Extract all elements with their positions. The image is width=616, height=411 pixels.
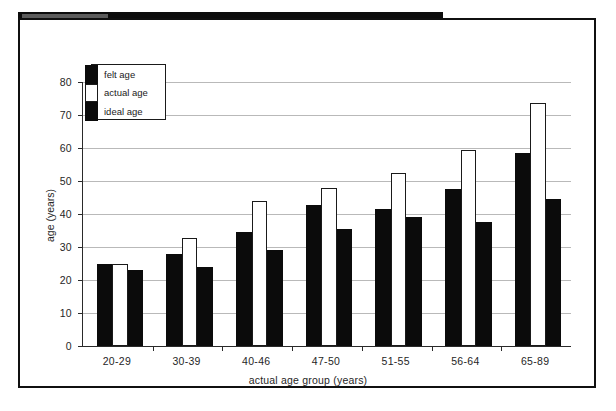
figure-page: FIGURE 1.1 Australian adults' felt and i…: [0, 0, 616, 411]
bar-ideal-age-40-46: [267, 250, 283, 346]
bar-ideal-age-51-55: [406, 217, 422, 346]
bar-actual-age-20-29: [112, 264, 128, 347]
bar-felt-age-20-29: [97, 264, 113, 347]
bar-ideal-age-30-39: [197, 267, 213, 346]
y-tick-label: 60: [38, 142, 72, 154]
legend-label: actual age: [104, 87, 148, 98]
bar-ideal-age-56-64: [476, 222, 492, 346]
x-tick-label: 30-39: [152, 355, 222, 367]
y-tick: [78, 214, 83, 215]
y-tick: [78, 148, 83, 149]
legend-label: ideal age: [104, 106, 143, 117]
bar-actual-age-30-39: [182, 238, 198, 346]
y-tick: [78, 181, 83, 182]
y-tick: [78, 346, 83, 347]
legend-swatch-icon: [85, 65, 98, 84]
bar-actual-age-40-46: [252, 201, 268, 346]
x-tick-label: 20-29: [82, 355, 152, 367]
bar-actual-age-47-50: [321, 188, 337, 346]
legend-swatch-icon: [85, 84, 98, 103]
bar-felt-age-47-50: [306, 205, 322, 346]
y-tick: [78, 82, 83, 83]
bar-actual-age-65-89: [530, 103, 546, 346]
bar-felt-age-40-46: [236, 232, 252, 346]
bar-felt-age-65-89: [515, 153, 531, 346]
x-axis-title: actual age group (years): [0, 374, 616, 386]
legend-item-ideal-age: ideal age: [92, 102, 165, 121]
y-tick-label: 0: [38, 340, 72, 352]
bar-felt-age-30-39: [166, 254, 182, 346]
plot-area: [82, 82, 571, 347]
x-tick-label: 65-89: [500, 355, 570, 367]
bar-ideal-age-65-89: [546, 199, 562, 346]
legend-label: felt age: [104, 69, 135, 80]
legend-item-felt-age: felt age: [92, 65, 165, 84]
y-tick: [78, 280, 83, 281]
legend-item-actual-age: actual age: [92, 84, 165, 103]
x-tick: [501, 346, 502, 351]
y-tick-label: 70: [38, 109, 72, 121]
legend-swatch-icon: [85, 102, 98, 121]
y-tick: [78, 313, 83, 314]
x-tick: [292, 346, 293, 351]
bar-ideal-age-20-29: [128, 270, 144, 346]
gridline: [83, 148, 571, 149]
bar-actual-age-56-64: [461, 150, 477, 346]
bar-actual-age-51-55: [391, 173, 407, 346]
y-tick-label: 20: [38, 274, 72, 286]
y-tick-label: 50: [38, 175, 72, 187]
bar-felt-age-51-55: [375, 209, 391, 346]
bar-chart: 01020304050607080age (years) felt age ac…: [0, 0, 616, 411]
chart-legend: felt age actual age ideal age: [91, 64, 166, 120]
x-tick-label: 56-64: [431, 355, 501, 367]
x-tick-label: 40-46: [221, 355, 291, 367]
y-tick: [78, 247, 83, 248]
x-tick: [153, 346, 154, 351]
gridline: [83, 181, 571, 182]
bar-felt-age-56-64: [445, 189, 461, 346]
x-tick: [222, 346, 223, 351]
y-tick-label: 80: [38, 76, 72, 88]
y-tick-label: 10: [38, 307, 72, 319]
x-tick: [432, 346, 433, 351]
y-axis-title: age (years): [44, 189, 56, 242]
x-tick-label: 47-50: [291, 355, 361, 367]
y-tick-label: 30: [38, 241, 72, 253]
x-tick-label: 51-55: [361, 355, 431, 367]
bar-ideal-age-47-50: [337, 229, 353, 346]
y-tick: [78, 115, 83, 116]
x-tick: [362, 346, 363, 351]
